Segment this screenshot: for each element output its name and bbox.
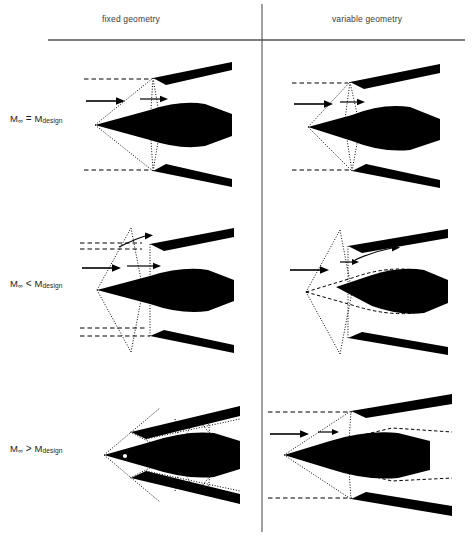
row-label-subscript: ∞: [18, 117, 23, 124]
oblique-shock-lower: [97, 290, 131, 352]
cell-variable-below-design: [290, 229, 448, 355]
row-label-above-design-mach: M∞>Mdesign: [10, 443, 63, 454]
row-label-operator: <: [23, 278, 35, 289]
row-label-reference: M: [35, 278, 43, 289]
column-header-variable-geometry: variable geometry: [262, 14, 472, 24]
spillage-flow-arrow: [119, 236, 145, 247]
freestream-flow-arrowhead: [300, 430, 309, 437]
captured-flow-arrowhead: [332, 429, 339, 435]
oblique-shock-lower: [306, 292, 340, 354]
cowl-lip-upper: [153, 62, 232, 85]
row-label-symbol: M: [10, 443, 18, 454]
row-label-reference-subscript: design: [43, 117, 63, 124]
row-label-subscript: ∞: [18, 447, 23, 454]
freestream-flow-arrowhead: [112, 264, 121, 271]
row-label-reference: M: [35, 113, 43, 124]
freestream-flow-arrowhead: [324, 100, 333, 107]
cell-fixed-design: [84, 62, 232, 187]
cell-variable-above-design: [268, 394, 452, 516]
centerbody-spike: [308, 106, 440, 151]
cowl-lip-lower: [153, 164, 232, 187]
cell-fixed-above-design: [104, 406, 240, 504]
cowl-lip-upper: [350, 64, 440, 89]
row-label-operator: >: [23, 443, 35, 454]
column-header-fixed-geometry: fixed geometry: [0, 14, 262, 24]
inlet-geometry-figure: fixed geometry variable geometry M∞=Mdes…: [0, 0, 472, 536]
freestream-flow-arrowhead: [116, 97, 125, 104]
row-label-reference: M: [35, 443, 43, 454]
row-label-operator: =: [23, 113, 35, 124]
cowl-lip-lower: [352, 164, 440, 188]
cowl-lip-lower: [348, 332, 448, 355]
captured-flow-arrowhead: [357, 99, 365, 105]
cowl-lip-upper: [351, 394, 452, 418]
captured-flow-arrowhead: [160, 96, 168, 102]
terminal-shock-lower-leg: [340, 292, 352, 354]
row-label-reference-subscript: design: [43, 282, 63, 289]
oblique-shock-upper: [97, 228, 131, 290]
inlet-diagram-canvas: [0, 0, 472, 536]
row-label-symbol: M: [10, 113, 18, 124]
row-label-below-design-mach: M∞<Mdesign: [10, 278, 63, 289]
centerbody-spike: [95, 103, 232, 147]
centerbody-spike-translated: [336, 269, 448, 314]
row-label-design-mach: M∞=Mdesign: [10, 113, 63, 124]
centerbody-spike-translated: [284, 432, 430, 478]
row-label-symbol: M: [10, 278, 18, 289]
stagnation-marker: [123, 454, 127, 458]
row-label-subscript: ∞: [18, 282, 23, 289]
cowl-lip-upper: [150, 228, 234, 251]
row-label-reference-subscript: design: [43, 447, 63, 454]
freestream-flow-arrowhead: [320, 266, 329, 273]
cell-fixed-below-design: [80, 228, 234, 353]
cowl-lip-lower: [150, 330, 234, 353]
centerbody-spike: [97, 269, 234, 312]
cell-variable-design: [292, 64, 440, 188]
captured-flow-arrowhead: [153, 263, 161, 269]
spillage-flow-arrowhead: [145, 233, 153, 240]
cowl-lip-lower: [351, 492, 452, 516]
cowl-lip-upper: [348, 229, 448, 253]
